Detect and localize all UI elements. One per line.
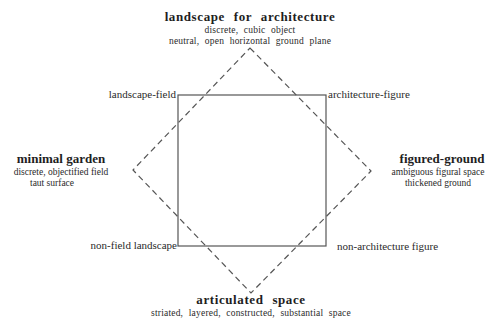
corner-top-left-label: landscape-field [109, 89, 176, 100]
diagram-canvas: landscape for architecture discrete, cub… [0, 0, 492, 326]
solid-square [178, 95, 326, 246]
vertex-right-line-2: thickened ground [384, 178, 492, 189]
vertex-left-line-2: taut surface [0, 178, 122, 189]
vertex-right-label: figured-ground ambiguous figural space t… [384, 152, 492, 189]
vertex-left-line-1: discrete, objectified field [0, 167, 122, 178]
corner-top-right-label: architecture-figure [328, 89, 410, 100]
vertex-bottom-label: articulated space striated, layered, con… [126, 293, 376, 319]
vertex-bottom-title: articulated space [126, 293, 376, 308]
vertex-top-line-1: discrete, cubic object [150, 25, 350, 36]
vertex-top-title: landscape for architecture [150, 10, 350, 25]
vertex-top-label: landscape for architecture discrete, cub… [150, 10, 350, 47]
dashed-diamond [133, 48, 371, 293]
vertex-bottom-line-1: striated, layered, constructed, substant… [126, 308, 376, 319]
vertex-right-line-1: ambiguous figural space [384, 167, 492, 178]
vertex-top-line-2: neutral, open horizontal ground plane [150, 36, 350, 47]
corner-bottom-left-label: non-field landscape [91, 240, 177, 251]
vertex-right-title: figured-ground [384, 152, 492, 167]
corner-bottom-right-label: non-architecture figure [337, 241, 438, 252]
vertex-left-title: minimal garden [0, 152, 122, 167]
vertex-left-label: minimal garden discrete, objectified fie… [0, 152, 122, 189]
